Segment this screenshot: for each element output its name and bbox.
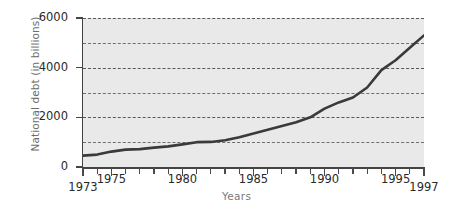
y-tick-4000 (76, 67, 83, 68)
x-tick-1982 (210, 168, 211, 174)
x-tick-label-1980: 1980 (167, 172, 199, 186)
x-tick-label-1973: 1973 (67, 180, 99, 194)
x-tick-1988 (295, 168, 296, 174)
x-tick-label-1990: 1990 (309, 172, 341, 186)
x-tick-1992 (352, 168, 353, 174)
x-axis-title: Years (222, 190, 251, 202)
plot-area (83, 18, 424, 167)
y-axis-title: National debt (in billions) (29, 0, 41, 174)
x-tick-label-1975: 1975 (95, 172, 127, 186)
y-tick-2000 (76, 117, 83, 118)
x-tick-1987 (281, 168, 282, 174)
x-tick-label-1985: 1985 (238, 172, 270, 186)
y-tick-label-2000: 2000 (24, 109, 68, 123)
data-series-layer (83, 18, 424, 167)
y-tick-label-6000: 6000 (24, 10, 68, 24)
y-tick-label-0: 0 (24, 159, 68, 173)
x-tick-1977 (139, 168, 140, 174)
x-tick-1978 (153, 168, 154, 174)
y-tick-6000 (76, 17, 83, 18)
x-tick-label-1995: 1995 (380, 172, 412, 186)
x-tick-label-1997: 1997 (408, 180, 440, 194)
x-tick-1973 (82, 168, 84, 176)
national-debt-line-chart: National debt (in billions) 020004000600… (0, 0, 464, 219)
y-tick-label-4000: 4000 (24, 60, 68, 74)
x-tick-1997 (423, 168, 425, 176)
x-tick-1983 (224, 168, 225, 174)
national-debt-line (83, 35, 424, 155)
x-tick-1993 (367, 168, 368, 174)
